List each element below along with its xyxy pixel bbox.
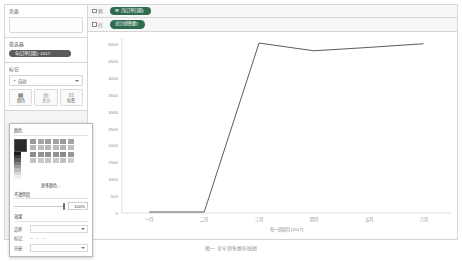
palette-swatch-3-0[interactable] (53, 139, 59, 144)
pages-drop-zone[interactable] (9, 17, 83, 33)
color-popup-title: 颜色 (14, 127, 88, 136)
mark-buttons: ▦ 颜色 ◎ 大小 ⊡ 标签 (9, 89, 83, 106)
marks-size-button[interactable]: ◎ 大小 (34, 89, 57, 106)
color-ramp-swatch-7[interactable] (14, 175, 21, 178)
effect-border-row: 边界 (14, 225, 88, 233)
mark-type-dropdown[interactable]: ⌁ 自动 (9, 75, 83, 86)
palette-column-2 (45, 139, 51, 164)
tableau-worksheet: 页面 筛选器 年(订单日期): 2017 标记 ⌁ 自动 ▦ 颜色 (4, 4, 458, 240)
chevron-down-icon (75, 80, 79, 82)
color-ramp-column[interactable] (14, 152, 21, 179)
palette-swatch-5-2[interactable] (68, 152, 74, 157)
current-color-column (14, 139, 27, 179)
marks-color-label: 颜色 (17, 99, 25, 103)
effect-halo-row: 光晕 (14, 244, 88, 252)
rows-shelf-label: 行 (98, 22, 103, 28)
y-axis-tick-label: 1500 (108, 160, 118, 165)
columns-shelf[interactable]: 列 ⊞ 月(订单日期) (88, 4, 458, 18)
palette-swatch-4-1[interactable] (60, 145, 66, 150)
palette-swatch-0-1[interactable] (30, 145, 36, 150)
opacity-slider[interactable] (14, 206, 65, 207)
palette-column-3 (53, 139, 59, 164)
palette-swatch-2-2[interactable] (45, 152, 51, 157)
marks-label-button[interactable]: ⊡ 标签 (60, 89, 83, 106)
effects-title: 效果 (14, 213, 88, 222)
opacity-value[interactable]: 100% (68, 202, 88, 210)
effect-marks-label: 标记 (14, 235, 27, 241)
palette-swatch-3-3[interactable] (53, 158, 59, 163)
palette-column-4 (60, 139, 66, 164)
mark-type-value-wrap: ⌁ 自动 (13, 78, 26, 84)
chevron-down-icon (81, 228, 85, 230)
palette-swatch-1-3[interactable] (38, 158, 44, 163)
y-axis-tick-label: 5000 (108, 42, 118, 47)
palette-swatch-1-1[interactable] (38, 145, 44, 150)
pill-expand-icon[interactable]: ⊞ (115, 9, 119, 14)
palette-swatch-5-1[interactable] (68, 145, 74, 150)
mark-type-icon: ⌁ (13, 78, 16, 83)
x-axis-tick-label: 六月 (420, 216, 428, 223)
y-axis-tick-label: 4000 (108, 76, 118, 81)
x-axis-tick-label: 四月 (310, 217, 318, 223)
current-color-swatch[interactable] (14, 139, 27, 152)
rows-shelf[interactable]: 行 总计(销售额) (88, 18, 458, 32)
palette-swatch-3-2[interactable] (53, 152, 59, 157)
rows-shelf-label-wrap: 行 (92, 22, 106, 28)
y-axis-tick-label: 2000 (108, 143, 118, 148)
columns-pill-month[interactable]: ⊞ 月(订单日期) (110, 7, 151, 16)
color-popup: 颜色 更多颜色... 不透明度 100% 效果 边界 (9, 123, 93, 257)
mark-type-value: 自动 (18, 78, 26, 84)
marks-size-label: 大小 (42, 99, 50, 103)
y-axis-tick-label: 3500 (108, 93, 118, 98)
line-chart-svg: 0500100015002000250030003500400045005000… (88, 32, 457, 239)
y-axis-tick-label: 0 (115, 211, 118, 216)
palette-swatch-3-1[interactable] (53, 145, 59, 150)
palette-swatch-4-3[interactable] (60, 158, 66, 163)
effect-halo-label: 光晕 (14, 245, 27, 251)
chart-canvas[interactable]: 0500100015002000250030003500400045005000… (88, 32, 458, 240)
palette-swatch-1-2[interactable] (38, 152, 44, 157)
palette-swatch-0-3[interactable] (30, 158, 36, 163)
palette-swatch-2-3[interactable] (45, 158, 51, 163)
viz-area: 列 ⊞ 月(订单日期) 行 总计(销售额) 050010001500200025… (88, 4, 458, 240)
palette-swatch-5-3[interactable] (68, 158, 74, 163)
filter-pill-order-date[interactable]: 年(订单日期): 2017 (9, 50, 71, 57)
palette-swatch-0-0[interactable] (30, 139, 36, 144)
y-axis-tick-label: 500 (111, 194, 119, 199)
palette-swatch-5-0[interactable] (68, 139, 74, 144)
x-axis-tick-label: 一月 (145, 217, 153, 223)
palette-swatch-1-0[interactable] (38, 139, 44, 144)
filters-title: 筛选器 (9, 41, 83, 47)
opacity-label: 不透明度 (14, 191, 88, 200)
line-series-path[interactable] (149, 43, 423, 212)
columns-shelf-label: 列 (98, 8, 103, 14)
effect-halo-dropdown[interactable] (30, 244, 88, 252)
effect-option-dashed-icon[interactable]: ⋯ (42, 236, 47, 241)
palette-swatch-2-1[interactable] (45, 145, 51, 150)
chevron-down-icon (81, 247, 85, 249)
filters-card: 筛选器 年(订单日期): 2017 (5, 38, 87, 63)
color-swatch-area (14, 139, 88, 179)
shelf-grid-icon (92, 9, 97, 14)
y-axis-tick-label: 2500 (108, 127, 118, 132)
pages-title: 页面 (9, 8, 83, 14)
effect-option-none-icon[interactable]: ⎯ (30, 236, 32, 241)
x-axis-tick-label: 二月 (200, 217, 208, 223)
marks-color-button[interactable]: ▦ 颜色 (9, 89, 32, 106)
x-axis-tick-label: 三月 (255, 217, 263, 223)
left-panel: 页面 筛选器 年(订单日期): 2017 标记 ⌁ 自动 ▦ 颜色 (4, 4, 88, 240)
palette-swatch-4-0[interactable] (60, 139, 66, 144)
color-palette-grid[interactable] (30, 139, 74, 164)
opacity-slider-knob[interactable] (63, 203, 66, 210)
effect-marks-options[interactable]: ⎯ ⎯ ⋯ (30, 236, 88, 241)
effect-marks-row: 标记 ⎯ ⎯ ⋯ (14, 235, 88, 241)
effect-border-dropdown[interactable] (30, 225, 88, 233)
effect-option-solid-icon[interactable]: ⎯ (36, 236, 38, 241)
palette-swatch-2-0[interactable] (45, 139, 51, 144)
more-colors-link[interactable]: 更多颜色... (14, 182, 88, 188)
y-axis-tick-label: 3000 (108, 110, 118, 115)
palette-swatch-0-2[interactable] (30, 152, 36, 157)
palette-swatch-4-2[interactable] (60, 152, 66, 157)
rows-pill-sales[interactable]: 总计(销售额) (110, 20, 145, 28)
opacity-row: 100% (14, 202, 88, 210)
